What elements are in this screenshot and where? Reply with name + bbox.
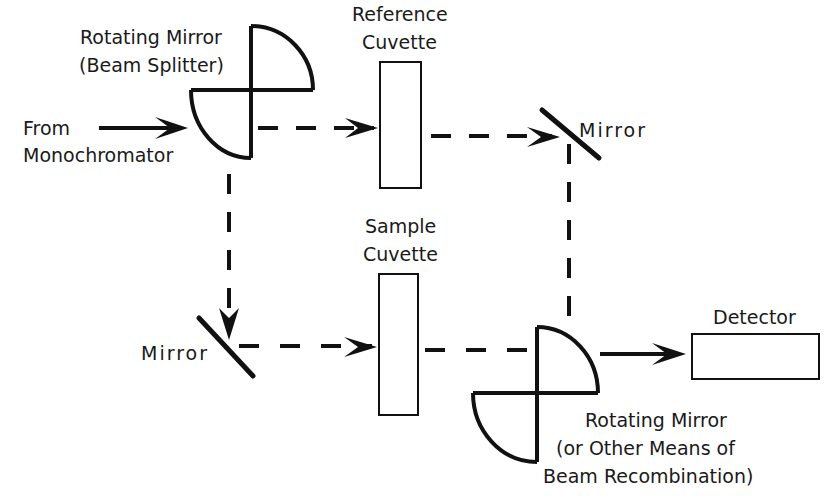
reference-label-line2: Cuvette — [362, 31, 437, 53]
beam-reference-to-mirror — [431, 127, 560, 147]
sample-label-line2: Cuvette — [363, 243, 438, 265]
combiner-label-line3: Beam Recombination) — [543, 465, 753, 487]
beam-mirror-to-sample — [239, 337, 377, 357]
source-arrow — [99, 117, 188, 139]
combiner-label-line2: (or Other Means of — [556, 437, 736, 459]
reference-cuvette — [380, 62, 421, 188]
beam-to-detector — [600, 343, 686, 365]
beam-splitter-to-mirror — [219, 174, 239, 340]
splitter-label-line1: Rotating Mirror — [80, 26, 222, 48]
reference-label-line1: Reference — [352, 3, 448, 25]
beam-to-reference — [258, 118, 378, 138]
sample-cuvette — [379, 274, 418, 415]
detector-label: Detector — [713, 306, 796, 328]
spectrophotometer-diagram: Rotating Mirror (Beam Splitter) From Mon… — [0, 0, 830, 500]
sample-label-line1: Sample — [365, 215, 436, 237]
combiner-label-line1: Rotating Mirror — [585, 409, 727, 431]
detector — [692, 334, 819, 379]
mirror-bottom-label: Mirror — [141, 342, 209, 364]
source-label-line1: From — [23, 117, 70, 139]
source-label-line2: Monochromator — [23, 144, 173, 166]
splitter-label-line2: (Beam Splitter) — [79, 54, 224, 76]
mirror-top-label: Mirror — [579, 119, 647, 141]
